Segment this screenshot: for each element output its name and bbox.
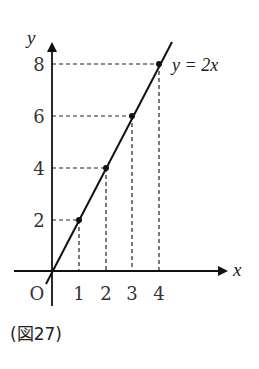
- point-4-8: [156, 61, 162, 67]
- equation-label: y = 2x: [170, 55, 218, 75]
- x-tick-3: 3: [126, 283, 137, 304]
- y-tick-8: 8: [33, 54, 44, 75]
- point-1-2: [76, 217, 82, 223]
- y-tick-6: 6: [33, 106, 44, 127]
- x-tick-2: 2: [100, 283, 111, 304]
- point-2-4: [103, 165, 109, 171]
- y-axis-label: y: [25, 27, 36, 48]
- point-3-6: [129, 113, 135, 119]
- x-tick-4: 4: [153, 283, 164, 304]
- y-tick-2: 2: [33, 210, 44, 231]
- line-y-2x: [46, 42, 172, 284]
- y-tick-4: 4: [33, 158, 44, 179]
- origin-label: O: [30, 283, 45, 304]
- x-axis-label: x: [232, 259, 242, 280]
- x-tick-1: 1: [73, 283, 84, 304]
- figure-caption: (図27): [10, 320, 62, 345]
- chart-svg: 8 6 4 2 O 1 2 3 4 y x y = 2x: [0, 0, 259, 369]
